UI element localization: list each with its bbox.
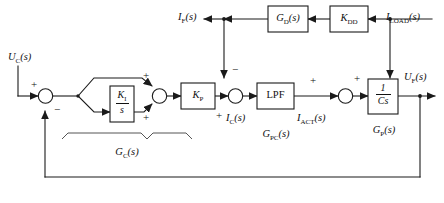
label-input-uc: UC(s) bbox=[8, 52, 31, 65]
annotation-gc: GC(s) bbox=[101, 146, 153, 160]
sign-sum4-top: + bbox=[354, 73, 360, 84]
node-output-tap bbox=[418, 94, 422, 98]
sign-sum2-top: + bbox=[143, 70, 149, 81]
block-label-kp: KP bbox=[181, 89, 215, 103]
wire-integral-branch bbox=[78, 96, 110, 112]
node-if-tap bbox=[222, 17, 226, 21]
label-signal-iact: IACT(s) bbox=[297, 113, 326, 126]
sum-junction-2 bbox=[152, 89, 166, 103]
sum-junction-4 bbox=[338, 89, 352, 103]
block-label-plant: 1 Cs bbox=[368, 83, 398, 106]
sign-sum3-left: + bbox=[216, 110, 222, 121]
sign-sum3-top: − bbox=[232, 64, 238, 75]
label-output-uf: UF(s) bbox=[404, 72, 427, 85]
label-signal-iload: ILOAD(s) bbox=[386, 12, 420, 25]
sum-junction-3 bbox=[228, 89, 242, 103]
sign-sum1-input: + bbox=[31, 79, 37, 90]
label-signal-ic: IC(s) bbox=[226, 113, 245, 126]
annotation-gpc: GPC(s) bbox=[250, 128, 302, 142]
brace-gc bbox=[62, 133, 192, 139]
sign-sum2-bottom: + bbox=[143, 112, 149, 123]
sign-sum4-left: + bbox=[310, 75, 316, 86]
sign-sum1-feedback: − bbox=[54, 104, 60, 115]
annotation-gp: GP(s) bbox=[358, 124, 410, 138]
sum-junction-1 bbox=[38, 89, 52, 103]
block-label-gd: GD(s) bbox=[268, 12, 308, 26]
block-label-ki-over-s: KI s bbox=[110, 90, 134, 115]
block-label-lpf: LPF bbox=[257, 89, 294, 100]
label-signal-if: IF(s) bbox=[178, 12, 197, 25]
block-label-kdd: KDD bbox=[330, 12, 368, 26]
block-diagram-canvas: UC(s) IF(s) ILOAD(s) IC(s) IACT(s) UF(s)… bbox=[0, 0, 444, 203]
node-controller-split bbox=[76, 94, 79, 97]
